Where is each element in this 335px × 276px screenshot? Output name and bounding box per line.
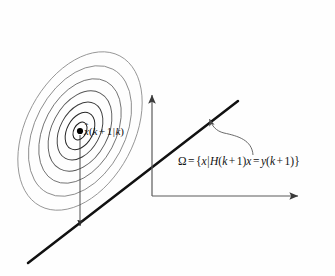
state-estimate-label: x̂(k+1|k) xyxy=(84,126,124,137)
close-brace: } xyxy=(294,155,300,167)
plus-operator-2: + xyxy=(275,155,285,167)
state-estimate-point xyxy=(77,128,83,134)
x-hat-symbol: x̂ xyxy=(84,126,89,137)
x-symbol: x xyxy=(84,125,89,137)
x-symbol: x xyxy=(202,155,207,167)
figure-canvas: x̂(k+1|k) Ω={x|H(k+1)x=y(k+1)} xyxy=(0,0,335,276)
equals-operator-2: = xyxy=(251,155,261,167)
diagram-svg xyxy=(0,0,335,276)
close-paren: ) xyxy=(120,125,124,137)
plus-operator: + xyxy=(227,155,237,167)
constraint-set-label: Ω={x|H(k+1)x=y(k+1)} xyxy=(178,156,300,168)
constraint-pointer-arrow xyxy=(210,119,254,155)
equals-operator: = xyxy=(187,155,197,167)
plus-operator: + xyxy=(97,125,106,137)
omega-symbol: Ω xyxy=(178,155,187,167)
constraint-line xyxy=(28,101,238,263)
